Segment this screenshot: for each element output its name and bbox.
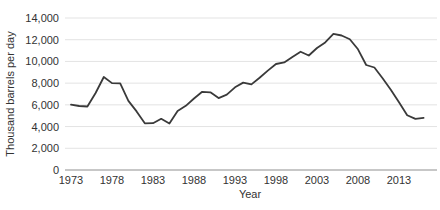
y-tick-label: 6,000 xyxy=(31,99,59,111)
line-chart-canvas: 02,0004,0006,0008,00010,00012,00014,000 … xyxy=(0,0,440,210)
x-axis-title: Year xyxy=(239,188,262,200)
x-tick-label: 1978 xyxy=(100,174,124,186)
x-tick-label: 1988 xyxy=(182,174,206,186)
x-tick-label: 2003 xyxy=(305,174,329,186)
gridlines xyxy=(65,18,437,170)
y-tick-label: 2,000 xyxy=(31,142,59,154)
y-tick-label: 4,000 xyxy=(31,121,59,133)
y-tick-label: 8,000 xyxy=(31,77,59,89)
y-axis-tick-labels: 02,0004,0006,0008,00010,00012,00014,000 xyxy=(25,12,59,176)
x-tick-label: 1998 xyxy=(264,174,288,186)
y-tick-label: 12,000 xyxy=(25,34,59,46)
y-axis-title: Thousand barrels per day xyxy=(4,31,16,157)
x-tick-label: 2013 xyxy=(387,174,411,186)
y-tick-label: 10,000 xyxy=(25,55,59,67)
x-tick-label: 1993 xyxy=(223,174,247,186)
x-tick-label: 2008 xyxy=(346,174,370,186)
x-tick-label: 1983 xyxy=(141,174,165,186)
x-axis-tick-labels: 197319781983198819931998200320082013 xyxy=(59,174,411,186)
y-tick-label: 14,000 xyxy=(25,12,59,24)
oil-imports-line-chart-figure: 02,0004,0006,0008,00010,00012,00014,000 … xyxy=(0,0,440,210)
data-series-line xyxy=(71,34,424,124)
x-tick-label: 1973 xyxy=(59,174,83,186)
